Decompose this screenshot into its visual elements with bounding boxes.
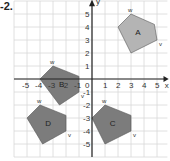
y-tick-label: 3 (85, 36, 90, 45)
x-tick-label: 2 (116, 81, 121, 90)
y-tick-label: 5 (85, 10, 90, 19)
y-tick-label: -5 (83, 140, 91, 149)
vertex-label-w: w (36, 98, 42, 104)
shape-label-a: A (135, 28, 141, 37)
x-tick-label: 1 (103, 81, 108, 90)
y-tick-label: 1 (85, 62, 90, 71)
x-tick-label: 5 (155, 81, 160, 90)
y-tick-label: -2 (83, 101, 91, 110)
y-axis-label: y (96, 0, 100, 6)
x-tick-label: -1 (74, 81, 82, 90)
y-tick-label: -3 (83, 114, 91, 123)
x-axis-label: x (165, 81, 169, 90)
y-tick-label: 2 (85, 49, 90, 58)
vertex-label-v: v (159, 41, 162, 47)
x-tick-label: 3 (129, 81, 134, 90)
vertex-label-w: w (49, 59, 55, 65)
shape-label-d: D (45, 119, 51, 128)
shape-label-c: C (110, 119, 116, 128)
x-tick-label: -5 (22, 81, 30, 90)
x-tick-label: 4 (142, 81, 147, 90)
y-tick-label: -4 (83, 127, 91, 136)
x-tick-label: -2 (61, 81, 69, 90)
x-tick-label: -4 (35, 81, 43, 90)
vertex-label-w: w (127, 7, 133, 13)
origin-label: 0 (85, 81, 90, 90)
vertex-label-v: v (68, 132, 71, 138)
y-tick-label: 4 (85, 23, 90, 32)
coordinate-plane: AwvBwvCwvDwvxy-5-4-3-2-112345-5-4-3-2-11… (0, 0, 170, 161)
x-tick-label: -3 (48, 81, 56, 90)
vertex-label-v: v (133, 132, 136, 138)
vertex-label-w: w (101, 98, 107, 104)
